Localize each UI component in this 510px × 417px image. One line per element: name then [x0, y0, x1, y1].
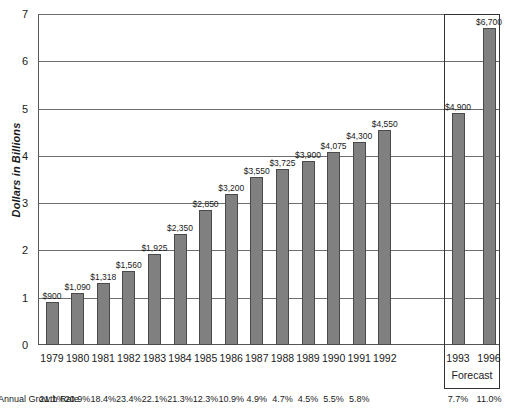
y-tick-label: 5: [2, 104, 28, 114]
y-tick-label: 0: [2, 340, 28, 350]
bar: [250, 177, 263, 345]
bar-value-label: $4,550: [365, 119, 405, 129]
x-axis-tick-labels: 1979198019811982198319841985198619871988…: [0, 352, 510, 368]
y-tick-label: 6: [2, 56, 28, 66]
bar-value-label: $4,075: [314, 141, 354, 151]
y-tick-label: 2: [2, 245, 28, 255]
bar-value-label: $6,700: [469, 17, 509, 27]
bar-value-label: $1,925: [134, 243, 174, 253]
bar: [148, 254, 161, 345]
forecast-caption: Forecast: [444, 369, 500, 381]
bar-value-label: $900: [32, 291, 72, 301]
y-tick-label: 7: [2, 9, 28, 19]
bar-value-label: $2,350: [160, 223, 200, 233]
bar: [225, 194, 238, 345]
bar-value-label: $4,900: [438, 102, 478, 112]
bar: [174, 234, 187, 345]
y-axis-tick-labels: 01234567: [0, 14, 34, 345]
bar-value-label: $1,560: [109, 260, 149, 270]
y-tick-label: 4: [2, 151, 28, 161]
x-tick-label: 1993: [441, 352, 475, 364]
bar: [452, 113, 465, 345]
y-tick-label: 1: [2, 293, 28, 303]
growth-rate-value: 5.8%: [342, 394, 376, 404]
bar-value-label: $1,318: [83, 272, 123, 282]
annual-growth-rate-row: Annual Growth Rate 21.1%20.9%18.4%23.4%2…: [0, 394, 510, 408]
x-tick-label: 1992: [368, 352, 402, 364]
gridline: [38, 61, 500, 62]
bar: [378, 130, 391, 345]
gridline: [38, 156, 500, 157]
bar: [122, 271, 135, 345]
bar: [302, 161, 315, 345]
bar: [327, 152, 340, 345]
bar-value-label: $4,300: [339, 131, 379, 141]
gridline: [38, 14, 500, 15]
bar-value-label: $1,090: [58, 282, 98, 292]
gridline: [38, 250, 500, 251]
bar: [199, 210, 212, 345]
bar: [46, 302, 59, 345]
plot-area: [38, 14, 500, 345]
bar: [276, 169, 289, 345]
gridline: [38, 203, 500, 204]
bar-value-label: $3,200: [211, 183, 251, 193]
bar: [353, 142, 366, 345]
bar-value-label: $2,850: [186, 199, 226, 209]
x-tick-label: 1996: [472, 352, 506, 364]
bar: [71, 293, 84, 345]
y-tick-label: 3: [2, 198, 28, 208]
growth-rate-value: 7.7%: [441, 394, 475, 404]
growth-rate-value: 11.0%: [472, 394, 506, 404]
bar: [97, 283, 110, 345]
bar: [483, 28, 496, 345]
bar-chart: Dollars in Billions 01234567 $900$1,090$…: [0, 0, 510, 417]
gridline: [38, 109, 500, 110]
